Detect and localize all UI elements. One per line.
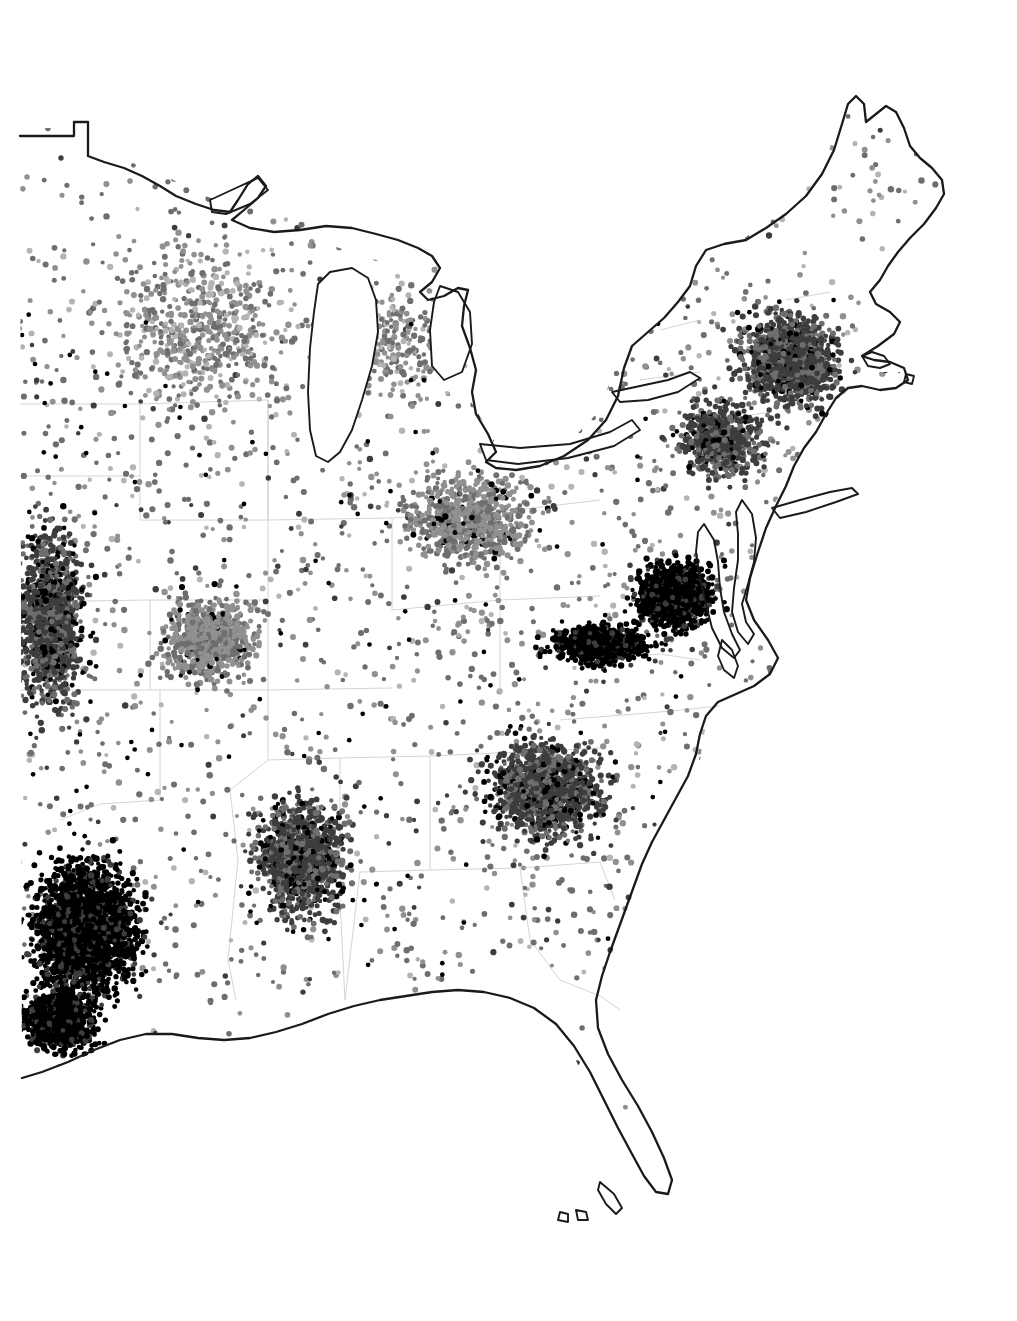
coastline-outline bbox=[20, 96, 944, 1222]
dot-density-layer bbox=[13, 108, 958, 1110]
map-canvas bbox=[0, 0, 1017, 1321]
great-lakes bbox=[210, 178, 700, 464]
map-page bbox=[0, 0, 1017, 1321]
dot-density-map-figure bbox=[0, 0, 1017, 1321]
